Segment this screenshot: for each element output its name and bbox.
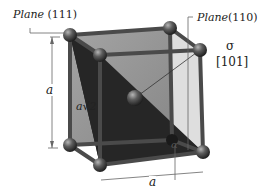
label-direction-101: [101] (216, 56, 248, 68)
atom-bottom-front-left (93, 158, 107, 172)
label-edge-vertical: a (46, 84, 53, 96)
label-diagonal: a√2 (76, 101, 97, 112)
label-plane-111: Plane (111) (13, 9, 77, 20)
atom-top-front-left (93, 48, 107, 62)
atom-top-back-left (63, 28, 77, 42)
label-edge-bottom: a (149, 176, 156, 187)
atom-top-back-right (163, 21, 177, 35)
atom-bottom-front-right (196, 145, 210, 159)
atom-bottom-back-left (63, 138, 77, 152)
label-sigma: σ (226, 40, 234, 52)
atom-top-front-right (193, 43, 207, 57)
unit-cell-diagram (0, 0, 261, 187)
label-plane-110: Plane(110) (197, 12, 258, 23)
label-angle: α (171, 140, 178, 150)
atom-center (127, 90, 143, 106)
